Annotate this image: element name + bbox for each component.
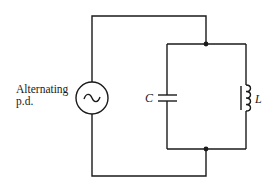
source-label-line2: p.d. [16, 95, 33, 108]
inductor-label: L [254, 92, 262, 106]
bottom-junction-dot [204, 147, 209, 152]
inductor-icon [241, 85, 251, 111]
top-junction-dot [204, 42, 209, 47]
capacitor-label: C [145, 91, 154, 105]
capacitor-icon [158, 95, 177, 101]
wire-source-bottom [92, 114, 206, 176]
wire-source-top [92, 16, 206, 82]
circuit-diagram: Alternating p.d. C L [0, 0, 276, 185]
ac-source-icon [76, 82, 108, 114]
